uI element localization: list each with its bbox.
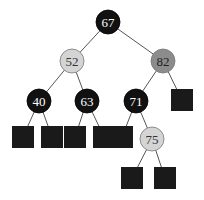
tree-node-67: 67 <box>96 10 120 34</box>
leaf-square <box>41 126 63 148</box>
leaf-node <box>121 167 143 189</box>
leaf-square <box>111 126 133 148</box>
tree-node-71: 71 <box>124 89 148 113</box>
leaf-node <box>154 167 176 189</box>
tree-node-63: 63 <box>75 89 99 113</box>
leaf-node <box>41 126 63 148</box>
leaf-node <box>12 126 34 148</box>
leaf-square <box>171 89 193 111</box>
leaf-square <box>121 167 143 189</box>
tree-diagram: 67528240637175 <box>0 0 204 200</box>
node-key-label: 63 <box>81 94 94 109</box>
tree-node-75: 75 <box>140 127 164 151</box>
leaf-node <box>111 126 133 148</box>
leaf-node <box>171 89 193 111</box>
node-key-label: 71 <box>130 94 143 109</box>
tree-node-40: 40 <box>27 89 51 113</box>
leaf-node <box>64 126 86 148</box>
tree-nodes: 67528240637175 <box>12 10 193 189</box>
node-key-label: 75 <box>146 132 159 147</box>
leaf-square <box>12 126 34 148</box>
node-key-label: 52 <box>66 54 79 69</box>
node-key-label: 40 <box>33 94 46 109</box>
tree-node-82: 82 <box>151 49 175 73</box>
node-key-label: 82 <box>157 54 170 69</box>
leaf-square <box>154 167 176 189</box>
node-key-label: 67 <box>102 15 116 30</box>
leaf-square <box>64 126 86 148</box>
tree-node-52: 52 <box>60 49 84 73</box>
